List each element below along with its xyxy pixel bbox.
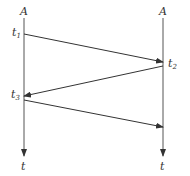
- left-axis-label: A: [19, 5, 28, 18]
- message-arrow-t3-out: [24, 100, 163, 127]
- message-arrow-t2-t3: [24, 66, 163, 96]
- event-label-t3: t3: [11, 88, 20, 102]
- event-label-t1: t1: [12, 26, 21, 40]
- right-axis-time-label: t: [160, 160, 165, 173]
- message-arrow-t1-t2: [24, 34, 163, 62]
- right-axis-label: A: [158, 5, 167, 18]
- event-label-t2: t2: [168, 57, 177, 71]
- left-axis-time-label: t: [21, 160, 26, 173]
- timing-diagram: A A t t t1 t2 t3: [0, 0, 190, 176]
